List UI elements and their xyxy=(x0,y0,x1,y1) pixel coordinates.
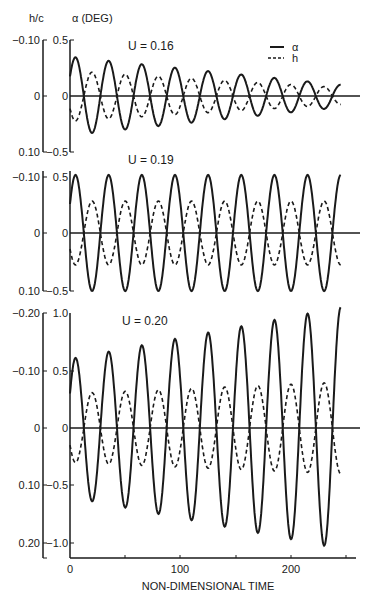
svg-text:−0.5: −0.5 xyxy=(46,146,68,158)
panel-u019: U = 0.19 −0.10 0 0.10 0.5 0 −0.5 xyxy=(12,153,360,297)
svg-text:−0.20: −0.20 xyxy=(12,307,40,319)
legend-h: h xyxy=(292,52,298,64)
svg-text:0.20: 0.20 xyxy=(19,537,40,549)
svg-text:−0.10: −0.10 xyxy=(12,34,40,46)
h-axis-title: h/c xyxy=(29,12,44,24)
svg-text:0: 0 xyxy=(34,422,40,434)
svg-text:0.5: 0.5 xyxy=(53,365,68,377)
svg-text:0: 0 xyxy=(67,563,73,575)
svg-text:100: 100 xyxy=(171,563,189,575)
svg-text:0: 0 xyxy=(62,227,68,239)
svg-text:0.5: 0.5 xyxy=(53,171,68,183)
alpha-series xyxy=(70,307,341,545)
x-axis: 0 100 200 NON-DIMENSIONAL TIME xyxy=(67,555,356,592)
panel-u016: U = 0.16 −0.10 0 0.10 0.5 0 −0.5 xyxy=(12,34,360,158)
alpha-axis-title: α (DEG) xyxy=(72,12,113,24)
panel-title: U = 0.19 xyxy=(128,153,174,167)
svg-text:0.10: 0.10 xyxy=(19,146,40,158)
svg-text:0: 0 xyxy=(62,90,68,102)
svg-text:0.5: 0.5 xyxy=(53,34,68,46)
svg-text:0.10: 0.10 xyxy=(19,479,40,491)
legend: α h xyxy=(268,41,299,64)
chart-canvas: h/c α (DEG) α h U = 0.16 −0.10 0 0.10 0.… xyxy=(0,0,374,598)
svg-text:1.0: 1.0 xyxy=(53,307,68,319)
svg-text:0: 0 xyxy=(34,90,40,102)
panel-title: U = 0.16 xyxy=(128,39,174,53)
svg-text:200: 200 xyxy=(282,563,300,575)
svg-text:−1.0: −1.0 xyxy=(46,537,68,549)
svg-text:−0.10: −0.10 xyxy=(12,365,40,377)
svg-text:−0.5: −0.5 xyxy=(46,285,68,297)
panel-u020: U = 0.20 −0.20 −0.10 0 0.10 0.20 1.0 0.5… xyxy=(12,307,360,558)
svg-text:0.10: 0.10 xyxy=(19,285,40,297)
svg-text:−0.5: −0.5 xyxy=(46,479,68,491)
svg-text:0: 0 xyxy=(34,227,40,239)
alpha-series xyxy=(70,57,341,132)
x-axis-title: NON-DIMENSIONAL TIME xyxy=(142,580,275,592)
svg-text:−0.10: −0.10 xyxy=(12,171,40,183)
svg-text:0: 0 xyxy=(62,422,68,434)
panel-title: U = 0.20 xyxy=(122,314,168,328)
